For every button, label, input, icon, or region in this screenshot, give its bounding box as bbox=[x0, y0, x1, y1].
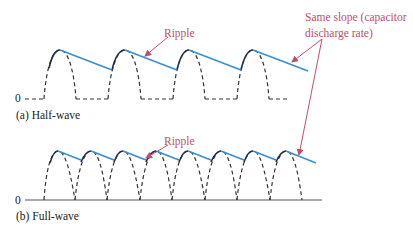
caption-half-wave: (a) Half-wave bbox=[16, 110, 80, 122]
same-slope-arrow-a bbox=[292, 39, 322, 62]
ripple-label-b: Ripple bbox=[164, 134, 195, 150]
half-wave-panel bbox=[25, 37, 308, 99]
full-wave-panel bbox=[25, 145, 322, 200]
same-slope-arrow-b bbox=[299, 39, 322, 155]
zero-label-a: 0 bbox=[15, 93, 21, 105]
same-slope-line2: discharge rate) bbox=[305, 26, 407, 42]
same-slope-line1: Same slope (capacitor bbox=[305, 10, 407, 26]
zero-label-b: 0 bbox=[15, 195, 21, 207]
full-wave-charging-edges bbox=[50, 151, 286, 163]
ripple-label-a: Ripple bbox=[164, 26, 195, 42]
half-wave-rectified-signal bbox=[25, 50, 288, 99]
caption-full-wave: (b) Full-wave bbox=[16, 211, 79, 223]
full-wave-ripple-line bbox=[58, 151, 316, 163]
same-slope-label: Same slope (capacitor discharge rate) bbox=[305, 10, 407, 41]
